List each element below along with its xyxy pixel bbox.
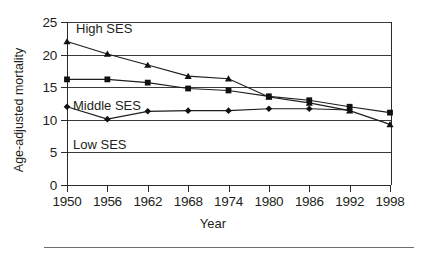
- x-tick-label: 1956: [93, 194, 122, 209]
- x-tick-mark: [107, 185, 108, 192]
- x-tick-mark: [309, 185, 310, 192]
- y-tick-label: 20: [42, 47, 57, 62]
- x-tick-mark: [188, 185, 189, 192]
- x-tick-label: 1980: [254, 194, 283, 209]
- annotation-low-ses: Low SES: [73, 137, 126, 152]
- annotation-middle-ses: Middle SES: [73, 98, 141, 113]
- y-axis-title: Age-adjusted mortality: [12, 25, 26, 195]
- x-tick-mark: [67, 185, 68, 192]
- x-tick-mark: [148, 185, 149, 192]
- gridline-15: [68, 87, 391, 88]
- y-tick-label: 10: [42, 112, 57, 127]
- annotation-high-ses: High SES: [76, 21, 132, 36]
- x-tick-label: 1974: [214, 194, 243, 209]
- gridline-5: [68, 152, 391, 153]
- x-tick-label: 1962: [133, 194, 162, 209]
- x-tick-mark: [269, 185, 270, 192]
- x-tick-mark: [350, 185, 351, 192]
- x-axis-title: Year: [0, 216, 426, 231]
- x-tick-label: 1992: [335, 194, 364, 209]
- x-tick-label: 1950: [53, 194, 82, 209]
- x-axis-line: [68, 185, 391, 186]
- chart-figure: 25 20 15 10 5 0 Age-adjusted mortality 1…: [0, 0, 426, 259]
- x-tick-label: 1968: [174, 194, 203, 209]
- footer-rule: [44, 247, 414, 248]
- x-tick-label: 1986: [295, 194, 324, 209]
- x-tick-label: 1998: [376, 194, 405, 209]
- y-tick-label: 5: [50, 145, 57, 160]
- gridline-10: [68, 120, 391, 121]
- x-tick-mark: [390, 185, 391, 192]
- x-tick-mark: [229, 185, 230, 192]
- y-tick-label: 25: [42, 15, 57, 30]
- y-tick-label: 15: [42, 80, 57, 95]
- gridline-20: [68, 55, 391, 56]
- y-tick-label: 0: [50, 178, 57, 193]
